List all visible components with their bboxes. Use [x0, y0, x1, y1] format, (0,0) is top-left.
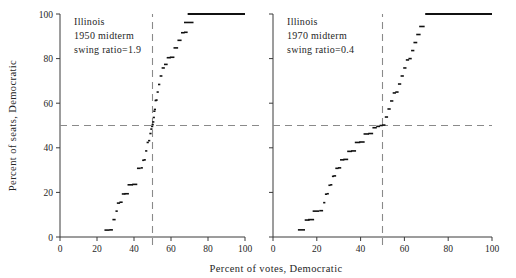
- x-tick-label: 40: [356, 244, 366, 254]
- annotation-line-0: Illinois: [74, 16, 105, 27]
- annotation-line-1: 1950 midterm: [74, 30, 134, 41]
- x-tick-label: 100: [238, 244, 253, 254]
- annotation-line-1: 1970 midterm: [287, 30, 347, 41]
- x-tick-label: 40: [129, 244, 139, 254]
- y-tick-label: 0: [48, 233, 53, 243]
- x-tick-label: 20: [92, 244, 102, 254]
- x-tick-label: 20: [312, 244, 322, 254]
- x-tick-label: 60: [400, 244, 410, 254]
- y-axis-title: Percent of seats, Democratic: [7, 60, 18, 191]
- panel-left: 020406080100020406080100Illinois1950 mid…: [39, 10, 259, 255]
- annotation-line-2: swing ratio=0.4: [287, 44, 354, 55]
- y-tick-label: 80: [44, 54, 54, 64]
- y-tick-label: 60: [44, 99, 54, 109]
- y-tick-label: 100: [39, 10, 54, 20]
- x-tick-label: 80: [203, 244, 213, 254]
- x-tick-label: 100: [485, 244, 500, 254]
- x-tick-label: 60: [166, 244, 176, 254]
- seats-votes-figure: 020406080100020406080100Illinois1950 mid…: [0, 0, 516, 278]
- annotation-line-2: swing ratio=1.9: [74, 44, 141, 55]
- annotation-line-0: Illinois: [287, 16, 318, 27]
- x-axis-title: Percent of votes, Democratic: [209, 263, 342, 274]
- y-tick-label: 20: [44, 188, 54, 198]
- x-tick-label: 0: [271, 244, 276, 254]
- x-tick-label: 80: [443, 244, 453, 254]
- x-tick-label: 0: [58, 244, 63, 254]
- panel-right: 020406080100Illinois1970 midtermswing ra…: [269, 14, 499, 254]
- y-tick-label: 40: [44, 143, 54, 153]
